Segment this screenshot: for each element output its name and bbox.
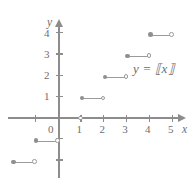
open-endpoint-dot [101, 96, 106, 101]
step-segment [82, 98, 103, 99]
open-endpoint-dot [55, 138, 60, 143]
x-tick-4 [149, 115, 150, 122]
closed-endpoint-dot [11, 160, 16, 165]
x-tick-3 [126, 115, 127, 122]
y-axis-arrow-icon [55, 19, 63, 27]
y-tick-1 [56, 96, 63, 97]
y-tick-label-4: 4 [44, 28, 50, 39]
closed-endpoint-dot [80, 96, 85, 101]
floor-function-graph: 1 2 3 4 5 0 4 3 2 1 y x y = ⟦x⟧ [0, 0, 196, 188]
open-endpoint-dot [169, 32, 174, 37]
x-tick-neg1 [35, 115, 36, 122]
x-tick-label-5: 5 [168, 124, 174, 135]
y-axis-line [58, 26, 60, 178]
x-axis-label: x [182, 124, 187, 136]
open-endpoint-dot [147, 53, 152, 58]
x-tick-label-4: 4 [145, 124, 151, 135]
x-tick-label-3: 3 [122, 124, 128, 135]
y-tick-label-2: 2 [44, 70, 50, 81]
y-tick-neg2 [56, 159, 63, 160]
open-endpoint-dot [78, 116, 83, 121]
step-segment [105, 77, 126, 78]
closed-endpoint-dot [34, 138, 39, 143]
closed-endpoint-dot [103, 75, 108, 80]
x-tick-5 [172, 115, 173, 122]
closed-endpoint-dot [125, 54, 130, 59]
y-tick-label-1: 1 [44, 91, 50, 102]
y-axis-label: y [47, 17, 52, 29]
y-tick-4 [56, 32, 63, 33]
step-segment [127, 56, 148, 57]
open-endpoint-dot [124, 74, 129, 79]
x-tick-2 [103, 115, 104, 122]
x-tick-label-1: 1 [77, 124, 83, 135]
origin-label: 0 [48, 124, 54, 135]
x-tick-label-2: 2 [100, 124, 106, 135]
function-label: y = ⟦x⟧ [133, 62, 174, 75]
y-tick-3 [56, 53, 63, 54]
y-tick-2 [56, 75, 63, 76]
closed-endpoint-dot [148, 32, 153, 37]
y-tick-label-3: 3 [44, 49, 50, 60]
open-endpoint-dot [32, 159, 37, 164]
x-axis-arrow-icon [178, 114, 186, 122]
